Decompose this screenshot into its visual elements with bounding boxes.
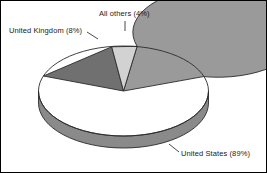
leader-line-united-kingdom	[87, 32, 98, 39]
pie-label-united-states: United States (89%)	[181, 149, 250, 158]
pie-slice-united-kingdom	[43, 47, 123, 91]
pie-side-wall-group	[39, 91, 209, 148]
leader-line-united-states	[169, 144, 179, 152]
pie-label-all-others: All others (4%)	[99, 9, 150, 18]
pie-chart-figure: All others (4%) United Kingdom (8%) Unit…	[0, 0, 267, 173]
pie-label-united-kingdom: United Kingdom (8%)	[9, 26, 82, 35]
pie-side-wall-us	[39, 91, 209, 148]
